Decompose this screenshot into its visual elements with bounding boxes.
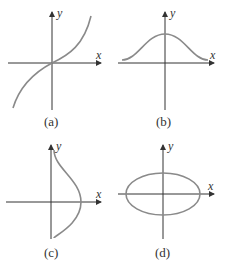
panel-c: x y (c) bbox=[6, 139, 102, 260]
caption-b: (b) bbox=[156, 114, 171, 129]
y-label: y bbox=[55, 139, 62, 153]
figure-canvas: x y (a) x y (b) x y (c) x y (d) bbox=[0, 0, 225, 263]
caption-d: (d) bbox=[155, 245, 170, 260]
panel-a: x y (a) bbox=[8, 6, 102, 129]
caption-c: (c) bbox=[44, 245, 58, 260]
x-label: x bbox=[207, 179, 214, 193]
x-label: x bbox=[95, 48, 102, 62]
y-label: y bbox=[167, 139, 174, 153]
panel-b: x y (b) bbox=[118, 6, 216, 129]
x-label: x bbox=[95, 187, 102, 201]
y-label: y bbox=[169, 6, 176, 20]
caption-a: (a) bbox=[44, 114, 58, 129]
x-label: x bbox=[209, 48, 216, 62]
panel-d: x y (d) bbox=[118, 139, 214, 260]
sideways-bell-curve bbox=[54, 150, 81, 238]
y-label: y bbox=[56, 6, 63, 20]
